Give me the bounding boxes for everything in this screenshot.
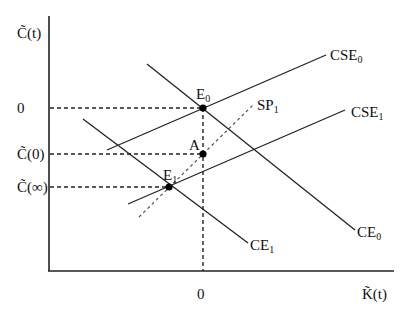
point-e0: [199, 104, 206, 111]
x-axis-label: K̃(t): [362, 286, 387, 303]
y-axis-label: C̃(t): [17, 25, 41, 42]
label-ce0: CE0: [357, 224, 381, 242]
y-tick-zero: 0: [17, 100, 25, 116]
label-e1: E1: [163, 167, 177, 185]
label-e0: E0: [196, 86, 210, 104]
y-tick-cinf: C̃(∞): [17, 179, 48, 196]
phase-diagram: C̃(t) K̃(t) 0 C̃(0) C̃(∞) 0 CSE0 CSE1 CE…: [0, 0, 411, 317]
label-sp1: SP1: [257, 97, 279, 115]
label-a: A: [189, 137, 200, 153]
label-cse1: CSE1: [351, 104, 384, 122]
curve-ce0: [147, 64, 355, 230]
label-ce1: CE1: [250, 237, 274, 255]
point-a: [199, 150, 206, 157]
y-tick-c0: C̃(0): [17, 146, 45, 163]
x-tick-zero: 0: [197, 286, 205, 302]
curve-cse1: [128, 110, 345, 204]
curve-cse0: [107, 55, 326, 150]
curve-sp1: [139, 105, 253, 217]
label-cse0: CSE0: [330, 47, 363, 65]
